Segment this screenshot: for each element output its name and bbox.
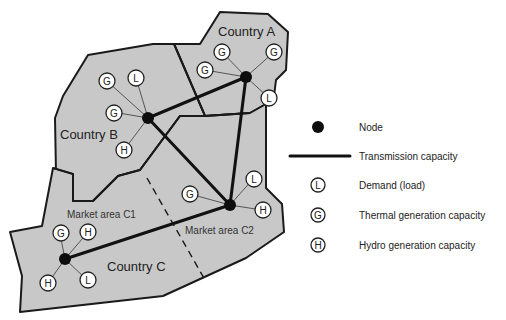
hydro-symbol: H	[40, 275, 56, 291]
svg-text:L: L	[251, 174, 257, 185]
load-symbol: L	[128, 70, 144, 86]
legend-thermal-label: Thermal generation capacity	[359, 210, 485, 221]
thermal-symbol: G	[99, 73, 115, 89]
thermal-symbol: G	[214, 44, 230, 60]
svg-text:H: H	[314, 240, 321, 251]
svg-text:H: H	[44, 278, 51, 289]
thermal-symbol: G	[197, 62, 213, 78]
thermal-symbol: G	[266, 44, 282, 60]
market-area-c1-label: Market area C1	[67, 209, 136, 220]
country-b-label: Country B	[60, 127, 118, 142]
hydro-symbol: H	[255, 202, 271, 218]
hydro-symbol: H	[116, 142, 132, 158]
thermal-symbol: G	[182, 186, 198, 202]
svg-text:H: H	[120, 145, 127, 156]
load-symbol: L	[80, 272, 96, 288]
svg-text:G: G	[314, 210, 322, 221]
svg-text:L: L	[85, 275, 91, 286]
legend-thermal-icon: G	[311, 208, 325, 222]
legend-node-label: Node	[359, 122, 383, 133]
svg-text:G: G	[103, 76, 111, 87]
node-a	[240, 71, 252, 83]
svg-text:G: G	[218, 47, 226, 58]
hydro-symbol: H	[80, 224, 96, 240]
svg-text:L: L	[315, 180, 321, 191]
legend-load-icon: L	[311, 178, 325, 192]
legend-hydro-icon: H	[311, 238, 325, 252]
market-area-c2-label: Market area C2	[185, 225, 254, 236]
thermal-symbol: G	[53, 225, 69, 241]
node-c2	[224, 199, 236, 211]
svg-text:H: H	[259, 205, 266, 216]
svg-text:L: L	[266, 93, 272, 104]
svg-text:G: G	[57, 228, 65, 239]
legend-hydro-label: Hydro generation capacity	[359, 240, 475, 251]
power-market-diagram: G G G L G L G H G H H L G L H Country A …	[0, 0, 506, 320]
legend-node-icon	[312, 121, 324, 133]
svg-text:G: G	[110, 108, 118, 119]
legend-transmission-label: Transmission capacity	[359, 151, 458, 162]
country-a-label: Country A	[218, 24, 275, 39]
legend-load-label: Demand (load)	[359, 180, 425, 191]
svg-text:G: G	[201, 65, 209, 76]
svg-text:L: L	[133, 73, 139, 84]
svg-text:G: G	[270, 47, 278, 58]
node-b	[142, 112, 154, 124]
svg-text:G: G	[186, 189, 194, 200]
thermal-symbol: G	[106, 105, 122, 121]
load-symbol: L	[246, 171, 262, 187]
svg-text:H: H	[84, 227, 91, 238]
legend: Node Transmission capacity L Demand (loa…	[290, 121, 485, 252]
load-symbol: L	[261, 90, 277, 106]
country-c-label: Country C	[107, 259, 166, 274]
node-c1	[59, 253, 71, 265]
